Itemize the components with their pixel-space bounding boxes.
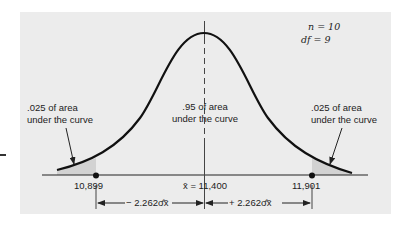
lower-bound-point <box>93 173 99 179</box>
right-tail-label-line1: .025 of area <box>311 102 362 114</box>
left-tail-shading <box>57 158 96 175</box>
upper-bound-label: 11,901 <box>292 180 320 192</box>
center-label-line1: .95 of area <box>160 101 250 113</box>
center-label-line2: under the curve <box>160 113 250 125</box>
mean-label: x̄ = 11,400 <box>170 180 240 192</box>
left-tail-label-line1: .025 of area <box>27 102 78 114</box>
lower-bound-label: 10,899 <box>74 180 103 192</box>
left-tail-pointer <box>66 128 74 164</box>
right-tail-pointer <box>330 128 342 164</box>
right-interval-label: + 2.262σ̂x̄ <box>229 197 272 209</box>
df-label: df = 9 <box>301 34 331 46</box>
left-interval-label: − 2.262σ̂x̄ <box>126 197 169 209</box>
right-tail-label-line2: under the curve <box>311 114 377 126</box>
upper-bound-point <box>309 173 315 179</box>
left-tail-label-line2: under the curve <box>27 114 93 126</box>
n-label: n = 10 <box>308 21 340 33</box>
